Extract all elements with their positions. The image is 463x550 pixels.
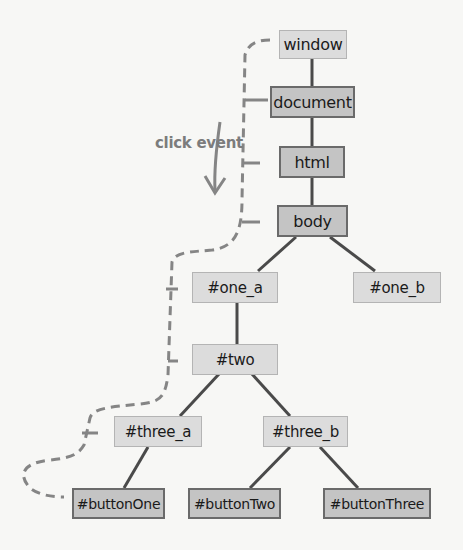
node-body: body [277, 205, 348, 237]
node-three-b: #three_b [263, 416, 348, 447]
node-two: #two [192, 344, 278, 375]
click-event-label: click event [155, 134, 243, 152]
node-one-a: #one_a [192, 272, 278, 303]
node-three-a: #three_a [114, 416, 202, 447]
node-document: document [270, 86, 355, 118]
node-one-b: #one_b [353, 272, 441, 303]
node-button-one: #buttonOne [72, 488, 165, 519]
node-button-three: #buttonThree [323, 488, 431, 519]
node-html: html [279, 146, 345, 178]
node-window: window [279, 30, 347, 59]
dom-event-diagram: click event window document html body #o… [0, 0, 463, 550]
click-event-arrow [205, 122, 225, 193]
node-button-two: #buttonTwo [188, 488, 281, 519]
